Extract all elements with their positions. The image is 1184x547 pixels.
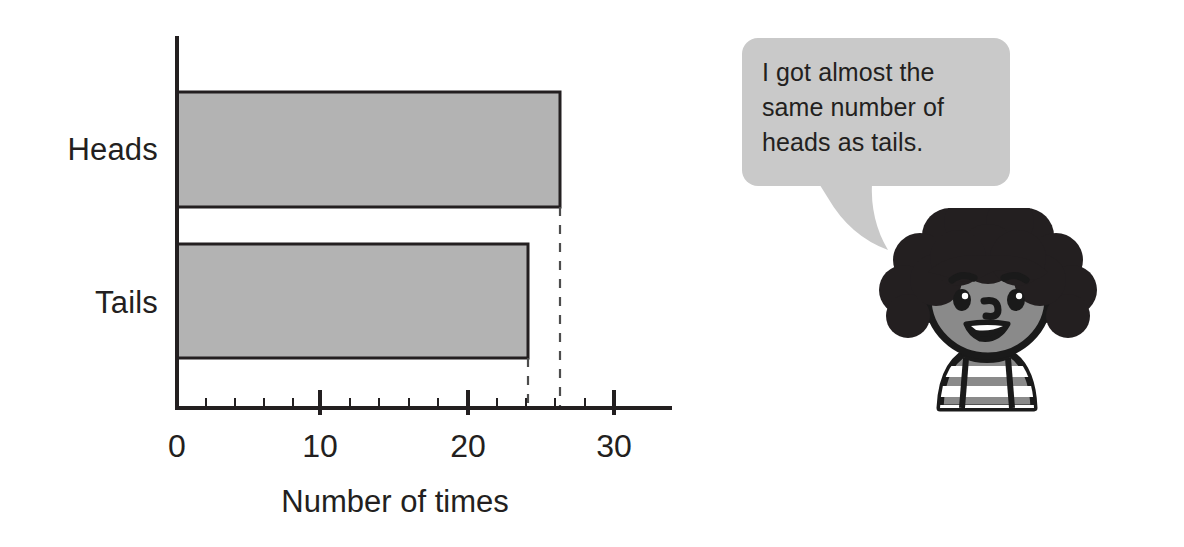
x-tick-label-30: 30 — [574, 430, 654, 462]
x-tick-label-20: 20 — [428, 430, 508, 462]
student-character-illustration — [858, 208, 1108, 453]
speech-bubble-text: I got almost the same number of heads as… — [762, 55, 990, 160]
category-label-tails: Tails — [95, 287, 158, 318]
bar-tails — [177, 244, 528, 358]
x-axis-major-ticks — [320, 390, 614, 415]
x-tick-label-0: 0 — [137, 430, 217, 462]
x-tick-label-10: 10 — [280, 430, 360, 462]
bar-chart: Heads Tails 0 10 20 30 Number of times — [0, 0, 700, 547]
chart-plot-area — [0, 0, 700, 547]
speech-bubble: I got almost the same number of heads as… — [742, 38, 1010, 186]
x-axis-title: Number of times — [0, 484, 790, 520]
category-label-heads: Heads — [67, 134, 158, 165]
bar-heads — [177, 92, 560, 207]
